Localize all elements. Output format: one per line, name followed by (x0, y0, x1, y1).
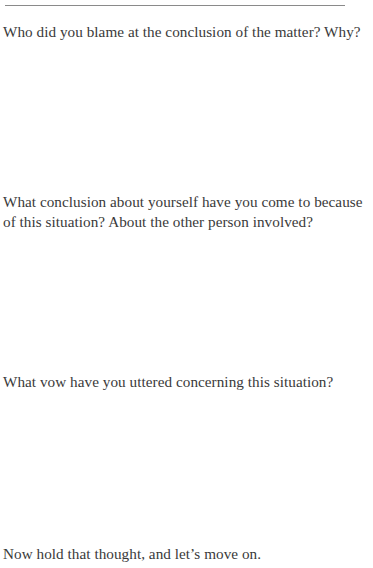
header-rule (5, 5, 345, 6)
question-vow: What vow have you uttered concerning thi… (3, 372, 373, 392)
closing-line: Now hold that thought, and let’s move on… (3, 544, 373, 564)
answer-space-vow (3, 400, 368, 530)
question-line: What vow have you uttered concerning thi… (3, 373, 333, 390)
question-line: of this situation? About the other perso… (3, 213, 313, 230)
question-blame: Who did you blame at the conclusion of t… (3, 22, 373, 42)
answer-space-conclusion (3, 240, 368, 360)
running-header-fragment (0, 0, 373, 3)
question-line: Who did you blame at the conclusion of t… (3, 23, 361, 40)
answer-space-blame (3, 50, 368, 180)
question-line: What conclusion about yourself have you … (3, 193, 363, 210)
question-conclusion: What conclusion about yourself have you … (3, 192, 373, 232)
